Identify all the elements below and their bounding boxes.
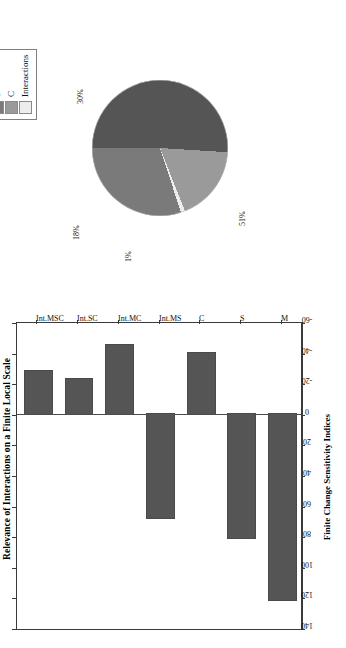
value-tick-top	[12, 445, 16, 446]
legend-label-interactions: Interactions	[20, 55, 31, 97]
bar-plot-area	[16, 322, 303, 630]
pie-slices	[92, 80, 228, 216]
pie-chart	[92, 80, 228, 216]
value-tick-top	[12, 476, 16, 477]
legend-swatch-c	[5, 101, 18, 114]
value-tick-label: -40	[302, 346, 313, 355]
value-tick-label: 80	[303, 529, 311, 538]
legend-item-s: S	[0, 55, 4, 114]
value-tick-label: -20	[302, 376, 313, 385]
category-label-c: C	[199, 314, 204, 323]
bar-int-ms	[146, 413, 175, 519]
value-tick-label: 120	[301, 590, 313, 599]
legend-item-c: C	[5, 55, 18, 114]
value-tick-top	[12, 568, 16, 569]
bar-int-mc	[105, 344, 134, 415]
legend-item-interactions: Interactions	[19, 55, 32, 114]
bar-int-msc	[24, 370, 53, 415]
pie-label-c: 18%	[72, 225, 81, 240]
value-tick-label: 100	[301, 560, 313, 569]
value-tick-top	[12, 415, 16, 416]
value-tick-top	[12, 384, 16, 385]
value-tick-top	[12, 507, 16, 508]
pie-label-s: 30%	[76, 89, 85, 104]
value-tick-label: -60	[302, 315, 313, 324]
bar-int-sc	[65, 378, 94, 415]
legend-swatch-s	[0, 101, 4, 114]
value-tick-top	[12, 629, 16, 630]
value-tick-label: 20	[303, 437, 311, 446]
value-tick-label: 60	[303, 499, 311, 508]
category-label-int-sc: Int.SC	[77, 314, 98, 323]
value-tick-top	[12, 598, 16, 599]
bar-s	[227, 413, 256, 539]
value-tick-label: 40	[303, 468, 311, 477]
value-axis	[301, 324, 302, 630]
category-label-int-mc: Int.MC	[118, 314, 141, 323]
value-tick-top	[12, 354, 16, 355]
legend-label-s: S	[0, 92, 3, 97]
pie-legend: M S C Interactions	[0, 49, 37, 120]
bar-chart-panel: Relevance of Interactions on a Finite Lo…	[0, 270, 346, 648]
value-tick-top	[12, 323, 16, 324]
category-label-s: S	[240, 314, 244, 323]
value-tick-label: 0	[305, 407, 309, 416]
category-label-int-msc: Int.MSC	[36, 314, 64, 323]
rotated-figure-canvas: Relevance of Interactions on a Finite Lo…	[0, 0, 346, 648]
pie-label-m: 51%	[238, 211, 247, 226]
legend-label-c: C	[6, 91, 17, 97]
pie-label-interactions: 1%	[124, 251, 133, 262]
category-label-int-ms: Int.MS	[159, 314, 181, 323]
chart-title: Relevance of Interactions on a Finite Lo…	[0, 270, 12, 648]
value-tick-top	[12, 537, 16, 538]
value-axis-title: Finite Change Sensitivity Indices	[322, 324, 332, 630]
category-label-m: M	[281, 314, 288, 323]
legend-swatch-interactions	[19, 101, 32, 114]
bar-m	[268, 413, 297, 602]
value-tick-label: 140	[301, 621, 313, 630]
pie-chart-panel: M S C Interactions 51% 1% 18% 30%	[6, 6, 340, 270]
bar-c	[187, 352, 216, 415]
